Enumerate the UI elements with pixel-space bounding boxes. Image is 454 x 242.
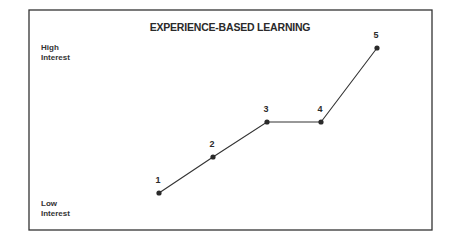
data-point-marker bbox=[264, 119, 269, 124]
data-point-marker bbox=[318, 119, 323, 124]
data-point-label: 1 bbox=[155, 175, 160, 185]
data-point-marker bbox=[210, 154, 215, 159]
chart-frame bbox=[29, 10, 432, 230]
y-axis-high-label: High Interest bbox=[41, 43, 70, 62]
data-point-marker bbox=[374, 45, 379, 50]
data-point-label: 5 bbox=[373, 30, 378, 40]
chart-title: EXPERIENCE-BASED LEARNING bbox=[150, 21, 311, 33]
data-point-marker bbox=[156, 190, 161, 195]
chart: EXPERIENCE-BASED LEARNING High Interest … bbox=[0, 0, 454, 242]
data-point-label: 3 bbox=[263, 104, 268, 114]
data-point-label: 4 bbox=[317, 104, 322, 114]
svg-text:Interest: Interest bbox=[41, 209, 70, 218]
data-point-labels: 12345 bbox=[155, 30, 378, 185]
svg-text:High: High bbox=[41, 43, 59, 52]
y-axis-low-label: Low Interest bbox=[41, 199, 70, 218]
svg-text:Interest: Interest bbox=[41, 53, 70, 62]
svg-text:Low: Low bbox=[41, 199, 58, 208]
data-point-label: 2 bbox=[209, 139, 214, 149]
